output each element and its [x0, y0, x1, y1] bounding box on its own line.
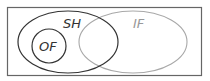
label-sh: SH [63, 16, 81, 31]
venn-diagram: SH IF OF [0, 0, 210, 81]
label-of: OF [39, 39, 57, 54]
label-if: IF [133, 16, 145, 31]
